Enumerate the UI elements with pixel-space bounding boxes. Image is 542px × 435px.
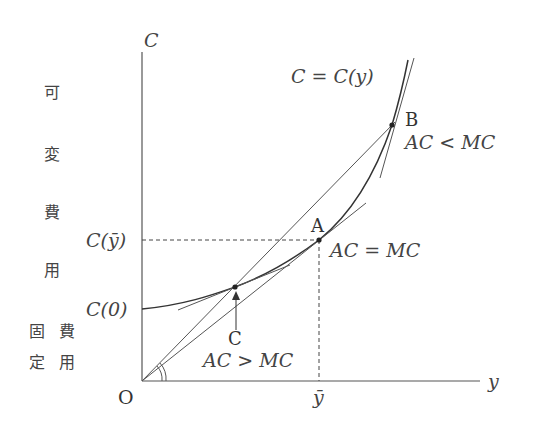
- tick-label-c-ybar: C(ȳ): [86, 229, 126, 251]
- fixed-cost-char-3: 費: [59, 322, 75, 341]
- fixed-cost-char-1: 固: [29, 322, 45, 341]
- tick-label-c-zero: C(0): [86, 298, 127, 320]
- point-c-condition: AC > MC: [201, 349, 294, 371]
- point-a-condition: AC = MC: [328, 239, 421, 261]
- cost-diagram: C y O C(ȳ) C(0) ȳ C = C(y) A AC = MC B A…: [0, 0, 542, 435]
- y-axis-label: C: [144, 29, 159, 51]
- cost-curve: [142, 60, 408, 309]
- x-axis-label: y: [487, 370, 499, 392]
- point-a: [316, 237, 321, 242]
- arrow-head-icon: [232, 291, 240, 300]
- variable-cost-char-3: 費: [44, 203, 60, 222]
- point-b: [389, 122, 394, 127]
- variable-cost-char-2: 変: [44, 145, 60, 164]
- point-a-label: A: [310, 215, 325, 236]
- point-c: [232, 284, 237, 289]
- point-b-label: B: [405, 109, 418, 130]
- fixed-cost-char-2: 定: [29, 353, 45, 372]
- curve-label: C = C(y): [291, 65, 374, 87]
- variable-cost-char-1: 可: [44, 83, 60, 102]
- point-b-condition: AC < MC: [403, 131, 496, 153]
- tick-label-ybar: ȳ: [312, 386, 324, 408]
- variable-cost-char-4: 用: [44, 261, 60, 280]
- fixed-cost-char-4: 用: [59, 353, 75, 372]
- point-c-label: C: [228, 328, 242, 349]
- origin-label: O: [118, 386, 134, 408]
